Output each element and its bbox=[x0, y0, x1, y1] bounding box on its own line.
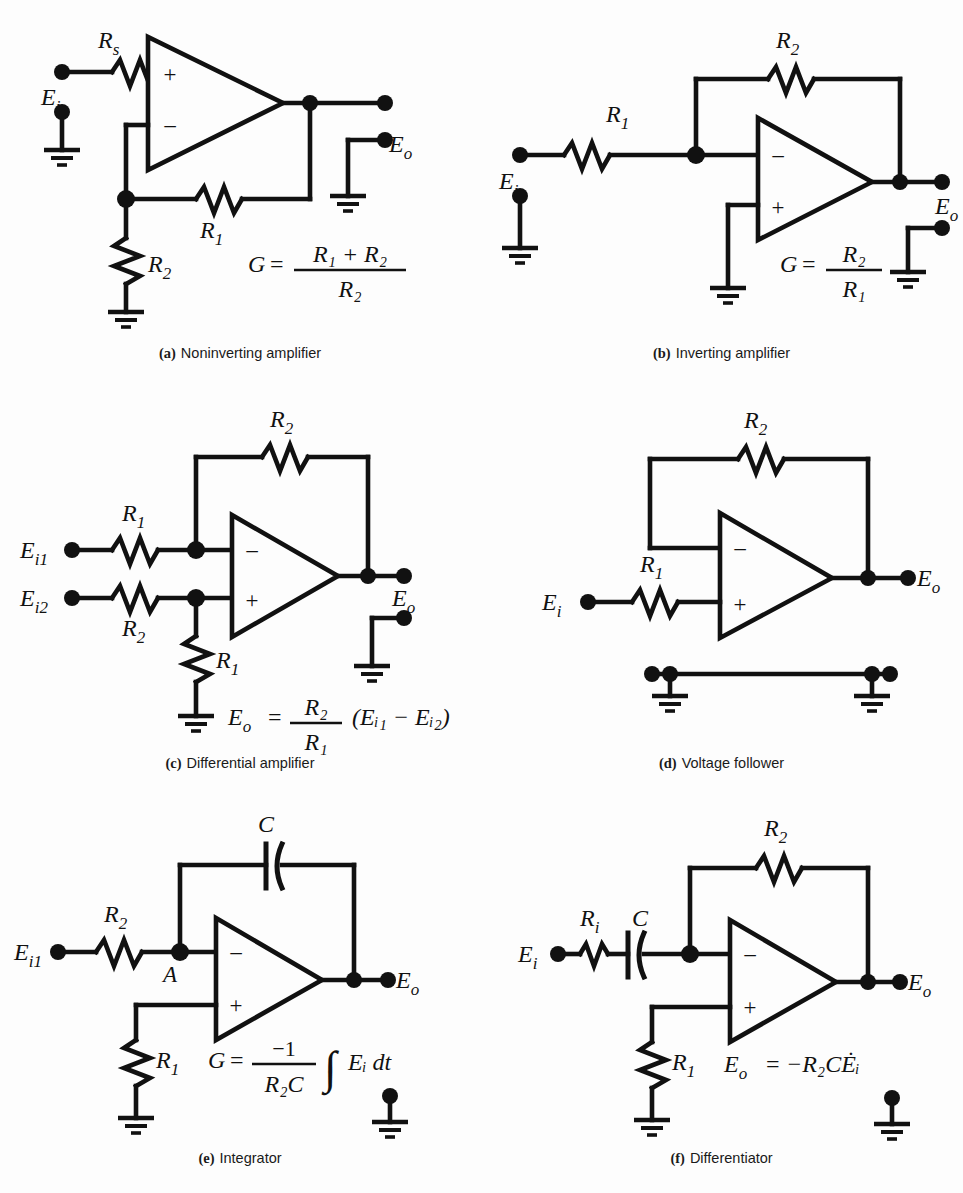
label-c-r2-bottom: R2 bbox=[121, 615, 146, 647]
formula-b-denominator: R₁ bbox=[841, 276, 865, 302]
label-e-node-a: A bbox=[161, 962, 178, 987]
ground-e-shunt bbox=[118, 1118, 154, 1133]
caption-b-text: Inverting amplifier bbox=[676, 345, 790, 361]
formula-a: G = R₁ + R₂ R₂ bbox=[248, 241, 406, 302]
resistor-a-r2 bbox=[114, 238, 140, 284]
formula-a-numerator: R₁ + R₂ bbox=[312, 241, 387, 267]
ground-f-reference bbox=[874, 1124, 910, 1139]
junction-c-output bbox=[360, 568, 376, 584]
resistor-c-r2-bottom bbox=[112, 586, 158, 612]
terminal-e-input bbox=[50, 944, 66, 960]
opamp-f-plus-sign: + bbox=[744, 995, 757, 1020]
opamp-b-plus-sign: + bbox=[772, 195, 785, 220]
caption-f-tag: (f) bbox=[670, 1150, 685, 1166]
opamp-e-triangle bbox=[216, 918, 322, 1040]
opamp-d-triangle bbox=[720, 513, 832, 638]
opamp-e-plus-sign: + bbox=[230, 993, 243, 1018]
formula-b-eq: = bbox=[802, 251, 816, 277]
label-c-ei1: Ei1 bbox=[19, 537, 48, 569]
caption-e: (e)Integrator bbox=[0, 1150, 480, 1167]
terminal-f-ground-post bbox=[884, 1090, 900, 1106]
caption-f-text: Differentiator bbox=[690, 1150, 773, 1166]
terminal-d-bus-left-end bbox=[644, 666, 660, 682]
terminal-d-output bbox=[900, 570, 916, 586]
formula-e-integral-sign: ∫ bbox=[321, 1042, 339, 1096]
terminal-d-input bbox=[580, 594, 596, 610]
terminal-c-input2 bbox=[64, 590, 80, 606]
terminal-e-ground-post bbox=[382, 1088, 398, 1104]
formula-e-tail: Eᵢ dt bbox=[347, 1049, 392, 1075]
ground-a-r2 bbox=[108, 312, 144, 327]
resistor-d-r2 bbox=[738, 447, 784, 473]
terminal-b-input bbox=[512, 147, 528, 163]
junction-a-feedback bbox=[117, 190, 135, 208]
opamp-a-plus-sign: + bbox=[164, 62, 177, 87]
caption-b-tag: (b) bbox=[653, 345, 671, 361]
label-c-r1-top: R1 bbox=[121, 500, 145, 532]
junction-b-output bbox=[892, 174, 908, 190]
terminal-a-output bbox=[377, 95, 393, 111]
formula-e-denominator: R₂C bbox=[263, 1071, 304, 1097]
panel-c-differential-amplifier: Ei1 Ei2 R1 R2 R2 R1 Eo − + Eo = R₂ R₁ (E… bbox=[0, 400, 480, 800]
formula-e-lhs: G bbox=[208, 1047, 225, 1073]
junction-d-bus-right bbox=[864, 666, 880, 682]
terminal-b-output bbox=[934, 174, 950, 190]
label-d-r1: R1 bbox=[639, 551, 663, 583]
formula-c-tail: (Eᵢ₁ − Eᵢ₂) bbox=[352, 704, 450, 730]
terminal-b-output-return bbox=[934, 220, 950, 236]
caption-a: (a)Noninverting amplifier bbox=[0, 345, 480, 362]
formula-e: G = −1 R₂C ∫ Eᵢ dt bbox=[208, 1036, 392, 1097]
junction-a-output bbox=[302, 95, 318, 111]
circuit-d-svg: R2 R1 Ei Eo − + bbox=[480, 400, 963, 755]
opamp-c-plus-sign: + bbox=[246, 588, 259, 613]
label-d-r2: R2 bbox=[743, 407, 768, 439]
resistor-f-r2 bbox=[756, 856, 802, 882]
formula-c-eq: = bbox=[268, 704, 282, 730]
junction-e-output bbox=[346, 972, 362, 988]
terminal-f-input bbox=[550, 946, 566, 962]
label-f-eo: Eo bbox=[907, 969, 931, 1001]
circuit-f-svg: Ei Ri C R2 R1 Eo − + Eo = −R₂CĖᵢ bbox=[480, 800, 963, 1150]
caption-c-tag: (c) bbox=[166, 755, 182, 771]
label-e-r1: R1 bbox=[155, 1047, 179, 1079]
resistor-b-r2 bbox=[768, 67, 814, 93]
formula-f: Eo = −R₂CĖᵢ bbox=[723, 1051, 860, 1083]
caption-d-tag: (d) bbox=[659, 755, 677, 771]
caption-d-text: Voltage follower bbox=[682, 755, 784, 771]
ground-c-shunt bbox=[178, 716, 214, 731]
formula-c: Eo = R₂ R₁ (Eᵢ₁ − Eᵢ₂) bbox=[227, 694, 450, 755]
opamp-b-triangle bbox=[758, 118, 872, 240]
panel-d-voltage-follower: R2 R1 Ei Eo − + (d)Voltage follower bbox=[480, 400, 963, 800]
label-d-eo: Eo bbox=[916, 565, 940, 597]
label-f-c: C bbox=[632, 905, 649, 931]
label-a-r1: R1 bbox=[199, 217, 223, 249]
opamp-a-minus-sign: − bbox=[163, 113, 177, 140]
label-e-c: C bbox=[258, 811, 275, 837]
ground-a-output bbox=[330, 196, 366, 211]
junction-d-bus-left bbox=[662, 666, 678, 682]
panel-a-noninverting-amplifier: Rs Ei Eo R1 R2 + − G = R₁ + R₂ R₂ (a)Non… bbox=[0, 0, 480, 390]
caption-d: (d)Voltage follower bbox=[480, 755, 963, 772]
label-f-r2: R2 bbox=[763, 815, 788, 847]
terminal-a-input bbox=[54, 64, 70, 80]
opamp-b-minus-sign: − bbox=[771, 143, 785, 170]
caption-a-tag: (a) bbox=[159, 345, 176, 361]
opamp-c-triangle bbox=[232, 515, 338, 637]
terminal-c-input1 bbox=[64, 542, 80, 558]
formula-b-numerator: R₂ bbox=[841, 241, 865, 267]
formula-c-numerator: R₂ bbox=[303, 694, 327, 720]
panel-f-differentiator: Ei Ri C R2 R1 Eo − + Eo = −R₂CĖᵢ (f)Diff… bbox=[480, 800, 963, 1193]
junction-c-inverting bbox=[187, 541, 205, 559]
resistor-c-r1-top bbox=[112, 538, 158, 564]
opamp-c-minus-sign: − bbox=[245, 538, 259, 565]
resistor-e-r2 bbox=[96, 940, 142, 966]
label-a-eo: Eo bbox=[388, 131, 412, 163]
ground-a-input bbox=[44, 150, 80, 165]
junction-b-summing bbox=[687, 146, 705, 164]
label-e-eo: Eo bbox=[395, 967, 419, 999]
junction-f-summing bbox=[681, 945, 699, 963]
caption-a-text: Noninverting amplifier bbox=[181, 345, 321, 361]
panel-e-integrator: Ei1 R2 C A R1 Eo − + G = −1 R₂C ∫ Eᵢ dt … bbox=[0, 800, 480, 1193]
formula-f-eq: = bbox=[766, 1051, 780, 1077]
opamp-d-plus-sign: + bbox=[734, 592, 747, 617]
